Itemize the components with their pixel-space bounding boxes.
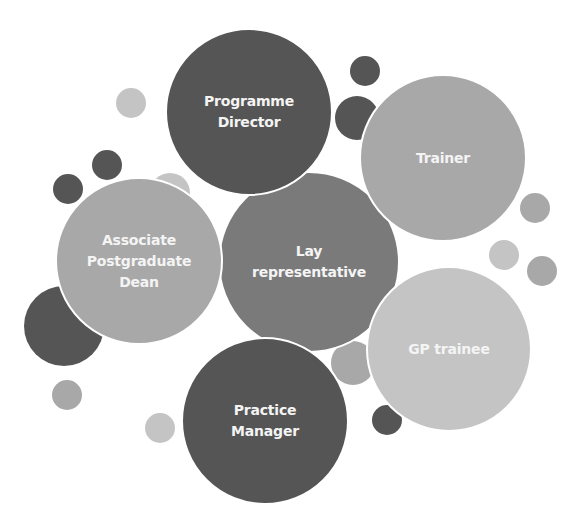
- bubble-label: Trainer: [416, 148, 470, 169]
- decorative-bubble: [489, 240, 519, 270]
- decorative-bubble: [520, 193, 550, 223]
- decorative-bubble: [350, 56, 380, 86]
- bubble-associate-postgraduate-dean: Associate Postgraduate Dean: [55, 177, 223, 345]
- decorative-bubble: [145, 413, 175, 443]
- decorative-bubble: [52, 380, 82, 410]
- decorative-bubble: [92, 150, 122, 180]
- bubble-trainer: Trainer: [359, 74, 527, 242]
- bubble-label: Lay representative: [252, 241, 366, 283]
- bubble-label: GP trainee: [408, 339, 489, 360]
- decorative-bubble: [116, 88, 146, 118]
- decorative-bubble: [527, 256, 557, 286]
- bubble-gp-trainee: GP trainee: [366, 266, 532, 432]
- decorative-bubble: [53, 174, 83, 204]
- bubble-label: Programme Director: [204, 91, 294, 133]
- bubble-label: Associate Postgraduate Dean: [87, 230, 192, 293]
- bubble-practice-manager: Practice Manager: [181, 337, 349, 505]
- diagram-canvas: Programme Director Trainer Associate Pos…: [0, 0, 584, 525]
- bubble-programme-director: Programme Director: [165, 28, 333, 196]
- bubble-label: Practice Manager: [231, 400, 299, 442]
